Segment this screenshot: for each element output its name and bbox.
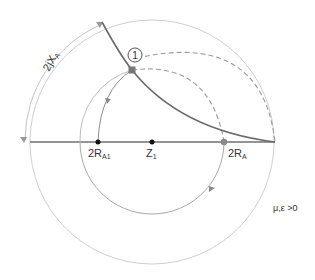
reactance-label: 2jXA [40, 49, 61, 74]
inner-circle-upper-left [80, 70, 132, 142]
reactance-arc [25, 25, 100, 140]
point-Z1 [150, 140, 155, 145]
arrow-head-icon [20, 137, 27, 143]
point-1-label: 1 [132, 50, 138, 61]
thick-curve [102, 22, 275, 142]
label-2RA1: 2RA1 [88, 147, 111, 160]
label-Z1: Z1 [146, 147, 157, 160]
dashed-arc-outer [137, 52, 275, 142]
point-2RA [221, 139, 227, 145]
smith-chart-diagram: 1 2jXA 2RA1 Z1 2RA μ,ε >0 [0, 0, 315, 280]
point-1-marker [129, 67, 136, 74]
point-2RA1 [96, 140, 101, 145]
label-2RA: 2RA [228, 147, 247, 160]
trajectory-arc-to-2RA1 [98, 70, 132, 142]
dashed-arc-inner [132, 69, 224, 142]
arrow-head-icon [209, 186, 215, 192]
material-condition-label: μ,ε >0 [273, 203, 297, 213]
